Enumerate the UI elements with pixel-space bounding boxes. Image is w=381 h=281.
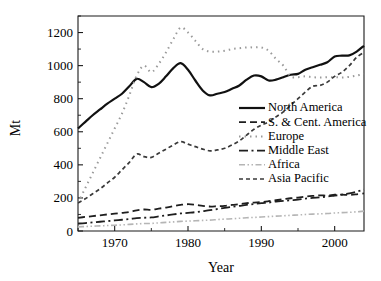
y-tick-label: 400 [54,157,74,172]
x-axis-title: Year [208,260,234,275]
legend-label-middle-east: Middle East [268,143,329,157]
series-line-s-cent-america [78,193,364,217]
x-tick-label: 1990 [248,235,274,250]
y-tick-label: 0 [67,224,74,239]
x-tick-label: 1980 [175,235,201,250]
legend-label-africa: Africa [268,157,300,171]
y-tick-label: 1200 [47,25,73,40]
x-axis-ticks: 1970198019902000 [78,226,348,250]
y-tick-label: 200 [54,190,74,205]
legend-label-asia-pacific: Asia Pacific [268,171,329,185]
y-tick-label: 800 [54,91,74,106]
x-tick-label: 2000 [322,235,348,250]
y-axis-title: Mt [8,120,23,136]
y-tick-label: 600 [54,124,74,139]
legend-label-europe: Europe [268,129,305,143]
line-chart-figure: 020040060080010001200 1970198019902000 N… [0,0,381,281]
y-tick-label: 1000 [47,58,73,73]
x-tick-label: 1970 [102,235,128,250]
legend-label-north-america: North America [268,100,343,114]
chart-legend: North AmericaS. & Cent. AmericaEuropeMid… [239,100,367,185]
legend-label-s-cent-america: S. & Cent. America [268,115,367,129]
chart-canvas: 020040060080010001200 1970198019902000 N… [0,0,381,281]
